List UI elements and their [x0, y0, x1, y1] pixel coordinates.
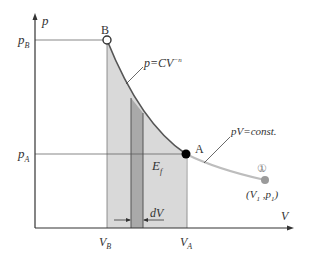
- y-axis-label: p: [42, 14, 49, 27]
- point-a-marker: [182, 150, 191, 159]
- area-label: Ef: [152, 159, 162, 176]
- x-axis-arrow-icon: [287, 226, 294, 231]
- point-b-marker: [103, 36, 111, 44]
- dv-strip: [131, 98, 143, 228]
- polytropic-leader: [126, 67, 143, 84]
- isotherm-leader: [204, 137, 230, 163]
- pb-tick-label: pB: [18, 33, 29, 50]
- va-tick-label: VA: [180, 236, 192, 251]
- isotherm-label: pV=const.: [231, 126, 277, 137]
- point-1-label: ①: [257, 163, 267, 174]
- point-b-label: B: [101, 24, 109, 36]
- point-a-label: A: [195, 143, 204, 155]
- isotherm-curve: [186, 154, 265, 180]
- dv-label: dV: [150, 207, 163, 219]
- vb-tick-label: VB: [99, 236, 111, 251]
- point-1-coords: (V1 ,p1): [246, 189, 278, 203]
- pa-tick-label: pA: [18, 147, 29, 164]
- y-axis-arrow-icon: [33, 13, 38, 20]
- x-axis-label: V: [281, 210, 288, 222]
- point-1-marker: [261, 176, 269, 184]
- polytropic-label: p=CV−n: [144, 57, 182, 69]
